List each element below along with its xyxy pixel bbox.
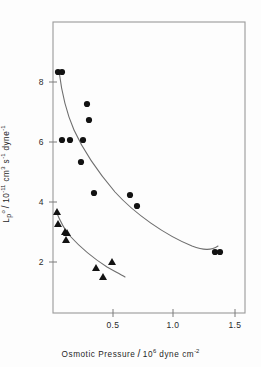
- data-point-circle: [67, 137, 73, 143]
- y-axis-unit-rest2: s: [2, 159, 11, 164]
- y-axis-title: Lpo/10-11cm3s-1dyne-1: [0, 126, 12, 223]
- data-point-circle: [78, 159, 84, 165]
- y-axis-unit-rest-exp: 3: [0, 166, 6, 169]
- y-axis-symbol: L: [2, 218, 11, 223]
- data-point-circle: [84, 101, 90, 107]
- x-axis-unit-rest-exp: -2: [194, 348, 199, 354]
- x-tick-label-1-0: 1.0: [166, 320, 179, 330]
- y-axis-unit-rest: cm: [2, 170, 11, 182]
- data-point-circle: [217, 249, 223, 255]
- series-circles: [55, 69, 223, 255]
- y-axis-slash: /: [0, 203, 11, 210]
- data-point-circle: [59, 137, 65, 143]
- data-point-triangle: [62, 236, 70, 243]
- data-point-circle: [134, 203, 140, 209]
- x-axis-title-slash: /: [135, 348, 142, 359]
- y-axis-sub: p: [5, 213, 12, 217]
- plot-frame: [53, 22, 245, 313]
- x-axis-unit-rest: dyne cm: [159, 349, 194, 358]
- fit-curve-triangles: [56, 211, 125, 277]
- series-triangles: [53, 208, 116, 280]
- figure-canvas: 8 6 4 2 0.5 1.0 1.5 Osmotic Pressure/106…: [0, 0, 261, 367]
- y-axis-unit-rest3-exp: -1: [0, 126, 6, 131]
- x-axis-title: Osmotic Pressure/106dyne cm-2: [0, 348, 261, 359]
- data-point-circle: [127, 192, 133, 198]
- x-tick-label-1-5: 1.5: [228, 320, 241, 330]
- y-axis-unit-rest3: dyne: [2, 131, 11, 151]
- data-point-triangle: [53, 208, 61, 215]
- y-tick-label-2: 2: [32, 257, 44, 267]
- plot-svg: [0, 0, 261, 367]
- x-tick-label-0-5: 0.5: [106, 320, 119, 330]
- data-point-triangle: [92, 264, 100, 271]
- data-point-triangle: [99, 273, 107, 280]
- x-axis-title-main: Osmotic Pressure: [62, 349, 136, 358]
- x-axis-unit-exp: 6: [153, 348, 156, 354]
- x-axis-unit-base: 10: [143, 349, 153, 358]
- data-point-circle: [91, 190, 97, 196]
- data-point-circle: [59, 69, 65, 75]
- y-axis-unit-exp: -11: [0, 185, 6, 193]
- y-axis-sup: o: [0, 210, 6, 213]
- y-axis-unit-base: 10: [2, 193, 11, 203]
- y-tick-label-4: 4: [32, 197, 44, 207]
- data-point-triangle: [108, 258, 116, 265]
- data-point-circle: [80, 137, 86, 143]
- y-axis-unit-rest2-exp: -1: [0, 154, 6, 159]
- y-tick-label-6: 6: [32, 137, 44, 147]
- y-tick-label-8: 8: [32, 77, 44, 87]
- data-point-circle: [86, 117, 92, 123]
